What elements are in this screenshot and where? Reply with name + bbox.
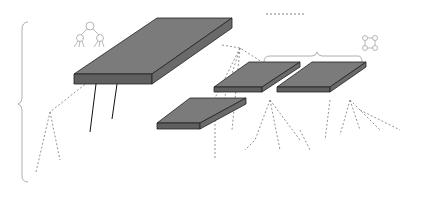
link-exts xyxy=(112,84,117,119)
link-dp xyxy=(90,84,96,132)
architecture-diagram xyxy=(0,0,428,213)
system-switch xyxy=(74,18,232,84)
hstar-tree-icon xyxy=(74,22,104,47)
hstar-brace xyxy=(18,22,28,182)
ring-topology-icon xyxy=(363,36,378,51)
ring-brace xyxy=(264,52,362,62)
